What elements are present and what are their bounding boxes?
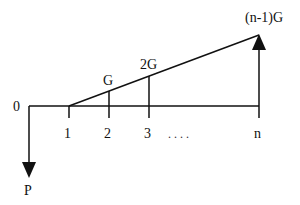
ellipsis: . . . .: [168, 127, 189, 141]
gradient-line: [69, 35, 259, 106]
label-1: 1: [64, 126, 71, 141]
label-3: 3: [144, 126, 151, 141]
label-2G: 2G: [140, 57, 157, 72]
label-2: 2: [104, 126, 111, 141]
label-P: P: [24, 183, 32, 198]
label-G: G: [103, 73, 113, 88]
label-0: 0: [13, 99, 20, 114]
label-n: n: [254, 126, 261, 141]
down-arrow-icon: [22, 162, 36, 178]
label-n-minus-1-G: (n-1)G: [245, 10, 283, 26]
cash-flow-diagram: 0 1 2 3 . . . . n P G 2G (n-1)G: [0, 0, 300, 205]
